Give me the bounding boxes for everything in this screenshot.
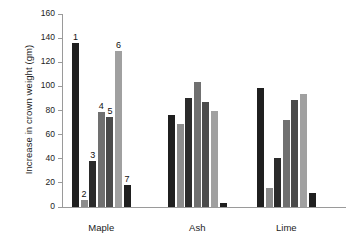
bar xyxy=(177,124,184,207)
bar-number-label: 1 xyxy=(69,32,82,42)
bar xyxy=(168,115,175,207)
bar xyxy=(274,158,281,207)
y-tick-label: 0 xyxy=(50,201,55,211)
bar xyxy=(124,185,131,207)
bar xyxy=(291,100,298,207)
bar-number-label: 7 xyxy=(121,174,134,184)
bar xyxy=(266,188,273,207)
y-axis-title: Increase in crown weight (gm) xyxy=(23,20,34,200)
y-tick-label: 140 xyxy=(41,32,55,42)
y-tick-label: 120 xyxy=(41,56,55,66)
bar xyxy=(81,200,88,207)
y-tick-label: 160 xyxy=(41,8,55,18)
bar xyxy=(283,120,290,207)
bar xyxy=(300,94,307,207)
bar xyxy=(220,203,227,207)
y-tick-label: 20 xyxy=(46,177,55,187)
bar-chart: Increase in crown weight (gm) 0204060801… xyxy=(0,0,351,247)
bar-number-label: 6 xyxy=(112,40,125,50)
y-tick-label: 40 xyxy=(46,153,55,163)
bar xyxy=(98,112,105,207)
bar xyxy=(89,161,96,207)
bar xyxy=(202,102,209,207)
group-label-ash: Ash xyxy=(148,222,247,233)
bar xyxy=(211,111,218,208)
y-tick-label: 100 xyxy=(41,80,55,90)
bar xyxy=(106,117,113,207)
bar xyxy=(309,193,316,207)
bar xyxy=(257,88,264,207)
x-axis-line xyxy=(62,207,346,208)
bar xyxy=(185,98,192,207)
group-label-lime: Lime xyxy=(237,222,336,233)
group-label-maple: Maple xyxy=(52,222,151,233)
y-tick-label: 60 xyxy=(46,129,55,139)
bar xyxy=(72,43,79,207)
bar xyxy=(194,82,201,207)
plot-area: 1234567 xyxy=(62,14,342,207)
y-tick-label: 80 xyxy=(46,105,55,115)
